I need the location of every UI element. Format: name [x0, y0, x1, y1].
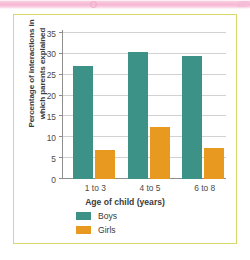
- bar-group: [177, 33, 232, 179]
- bar-group: [68, 33, 123, 179]
- y-tick-label: 15: [47, 112, 56, 122]
- bar-boys-4-to-5: [128, 52, 148, 179]
- legend-item-boys: Boys: [76, 211, 117, 221]
- plot-area: 05101520253035 1 to 34 to 56 to 8: [62, 33, 226, 179]
- figure-frame: Percentage of interactions in which pare…: [13, 14, 237, 244]
- y-tick-label: 25: [47, 70, 56, 80]
- y-tick-label: 30: [47, 49, 56, 59]
- band-tick-icon: [237, 1, 249, 7]
- y-tick-label: 10: [47, 133, 56, 143]
- bar-girls-4-to-5: [150, 127, 170, 179]
- y-tick-label: 0: [51, 175, 56, 185]
- y-tick-label: 35: [47, 29, 56, 39]
- x-axis-label: Age of child (years): [14, 197, 236, 207]
- bar-boys-1-to-3: [73, 66, 93, 179]
- y-tick-label: 20: [47, 91, 56, 101]
- legend-label-girls: Girls: [98, 225, 116, 235]
- bar-group: [123, 33, 178, 179]
- legend-label-boys: Boys: [98, 211, 117, 221]
- bars-layer: [62, 33, 226, 179]
- bar-boys-6-to-8: [182, 56, 202, 179]
- y-axis-label: Percentage of interactions in which pare…: [27, 4, 48, 144]
- band-dot-icon: [90, 1, 97, 8]
- x-tick-label: 6 to 8: [175, 183, 235, 193]
- x-tick-label: 4 to 5: [120, 183, 180, 193]
- chart-legend: BoysGirls: [76, 211, 117, 239]
- x-tick-label: 1 to 3: [65, 183, 125, 193]
- bar-girls-1-to-3: [95, 150, 115, 179]
- legend-swatch-boys: [76, 212, 91, 221]
- bar-chart: Percentage of interactions in which pare…: [14, 15, 236, 243]
- y-axis-label-line1: Percentage of interactions in: [27, 4, 38, 144]
- legend-item-girls: Girls: [76, 225, 117, 235]
- y-tick-label: 5: [51, 154, 56, 164]
- legend-swatch-girls: [76, 226, 91, 235]
- bar-girls-6-to-8: [204, 148, 224, 179]
